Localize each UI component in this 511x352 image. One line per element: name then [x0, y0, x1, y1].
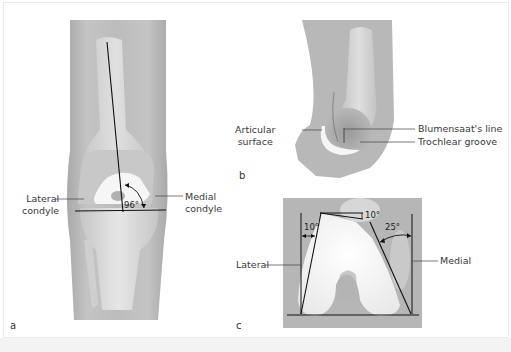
label-lateral-condyle-line2: condyle	[22, 205, 59, 217]
label-articular-line1: Articular	[235, 124, 275, 136]
panel-letter-a: a	[10, 320, 16, 331]
label-articular-surface: Articular surface	[235, 124, 275, 148]
figure-illustration	[0, 0, 511, 352]
label-lateral: Lateral	[236, 259, 269, 271]
label-medial: Medial	[440, 255, 471, 267]
panel-letter-c: c	[236, 320, 242, 331]
panel-b-knee-lateral	[295, 20, 415, 178]
angle-25-medial: 25°	[385, 222, 400, 232]
label-blumensaats-line: Blumensaat's line	[418, 123, 502, 135]
angle-96: 96°	[124, 200, 139, 210]
panel-c-condyles-axial	[265, 198, 438, 328]
panel-a-knee-anterior	[55, 20, 183, 320]
label-lateral-condyle: Lateral condyle	[22, 193, 59, 217]
label-trochlear-groove: Trochlear groove	[418, 136, 497, 148]
label-lateral-condyle-line1: Lateral	[22, 193, 59, 205]
angle-10-lateral: 10°	[304, 222, 319, 232]
label-medial-condyle-line1: Medial	[185, 191, 222, 203]
angle-10-top: 10°	[365, 210, 380, 220]
panel-letter-b: b	[239, 170, 245, 181]
label-medial-condyle-line2: condyle	[185, 203, 222, 215]
label-medial-condyle: Medial condyle	[185, 191, 222, 215]
label-articular-line2: surface	[235, 136, 275, 148]
